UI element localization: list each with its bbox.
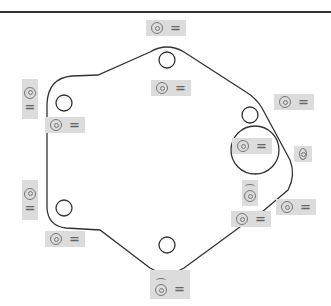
concentric-circle-icon bbox=[244, 190, 256, 202]
hole-right-upper bbox=[242, 107, 258, 123]
tag-right-upper[interactable]: = bbox=[274, 94, 314, 110]
concentric-circle-icon bbox=[50, 119, 62, 131]
tag-right-lower[interactable]: = bbox=[276, 199, 316, 215]
concentric-circle-icon bbox=[236, 213, 248, 225]
bottom-symbol-group bbox=[155, 278, 167, 296]
hole-top bbox=[159, 52, 175, 68]
concentric-circle-icon bbox=[156, 82, 168, 94]
concentric-circle-icon bbox=[279, 96, 291, 108]
arc-mark-icon bbox=[156, 278, 166, 283]
tag-large-port[interactable]: = bbox=[232, 138, 272, 154]
concentric-circle-icon bbox=[237, 140, 249, 152]
concentric-circle-icon bbox=[24, 87, 36, 99]
concentric-circle-icon bbox=[155, 284, 167, 296]
tag-right-edge[interactable] bbox=[294, 146, 312, 162]
tag-upper-center[interactable]: = bbox=[151, 80, 191, 96]
concentric-circle-icon bbox=[24, 188, 36, 200]
tag-top[interactable]: = bbox=[146, 20, 186, 36]
tag-left-lower[interactable]: = bbox=[45, 231, 85, 247]
concentric-circle-icon bbox=[299, 148, 307, 160]
concentric-circle-icon bbox=[151, 22, 163, 34]
tag-left-upper[interactable]: = bbox=[45, 117, 85, 133]
concentric-circle-icon bbox=[281, 201, 293, 213]
arc-mark-icon bbox=[245, 184, 255, 189]
tag-right-small-hole[interactable] bbox=[242, 180, 258, 206]
tag-lower-right[interactable]: = bbox=[231, 211, 271, 227]
tag-left-upper-vertical[interactable]: = bbox=[22, 79, 38, 119]
hole-left-lower bbox=[56, 200, 72, 216]
hole-bottom bbox=[159, 237, 175, 253]
gasket-outline-drawing bbox=[0, 0, 331, 306]
hole-left-upper bbox=[56, 95, 72, 111]
tag-left-lower-vertical[interactable]: = bbox=[22, 180, 38, 220]
tag-bottom[interactable]: = bbox=[150, 270, 190, 299]
concentric-circle-icon bbox=[50, 233, 62, 245]
